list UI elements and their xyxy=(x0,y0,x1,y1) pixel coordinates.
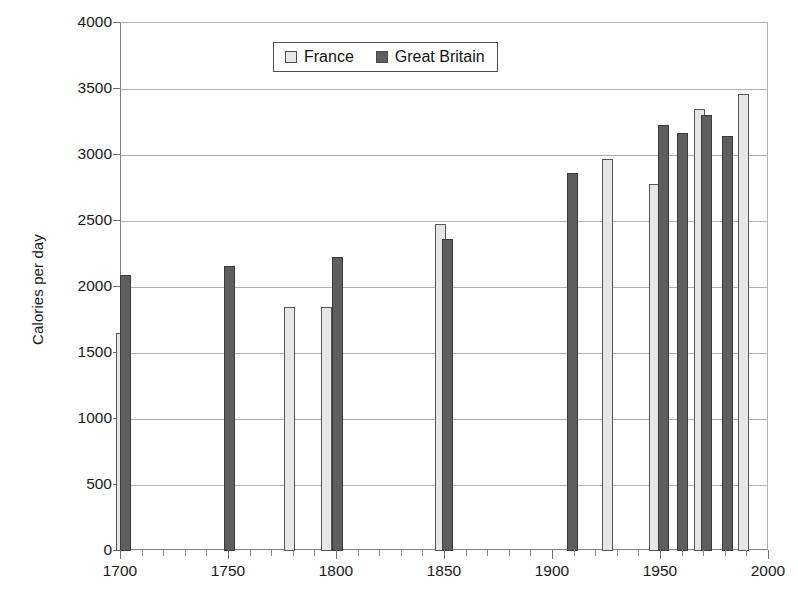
y-axis-tick-label: 500 xyxy=(42,475,112,493)
y-axis-tick-mark xyxy=(113,22,120,23)
x-axis-major-tick xyxy=(228,550,229,559)
x-axis-minor-tick xyxy=(509,550,510,556)
x-axis-tick-label: 1800 xyxy=(296,562,376,580)
y-axis-tick-label: 2500 xyxy=(42,211,112,229)
x-axis-minor-tick xyxy=(271,550,272,556)
x-axis-minor-tick xyxy=(617,550,618,556)
y-axis-tick-label: 3500 xyxy=(42,79,112,97)
x-axis-major-tick xyxy=(660,550,661,559)
chart-legend: France Great Britain xyxy=(273,42,498,72)
x-axis-minor-tick xyxy=(250,550,251,556)
x-axis-minor-tick xyxy=(163,550,164,556)
x-axis-minor-tick xyxy=(293,550,294,556)
bar-gb-1702 xyxy=(120,275,131,551)
x-axis-minor-tick xyxy=(595,550,596,556)
bar-france-1795 xyxy=(321,307,332,551)
x-axis-major-tick xyxy=(768,550,769,559)
y-axis-tick-label: 2000 xyxy=(42,277,112,295)
x-axis-minor-tick xyxy=(142,550,143,556)
bar-gb-1909 xyxy=(567,173,578,551)
bar-gb-1960 xyxy=(677,133,688,551)
x-axis-minor-tick xyxy=(530,550,531,556)
bar-gb-1951 xyxy=(658,125,669,551)
bar-gb-1971 xyxy=(701,115,712,551)
y-axis-tick-label: 1500 xyxy=(42,343,112,361)
legend-label-france: France xyxy=(304,48,354,66)
x-axis-minor-tick xyxy=(466,550,467,556)
x-axis-minor-tick xyxy=(422,550,423,556)
legend-swatch-great-britain-icon xyxy=(376,51,388,63)
bar-france-1778 xyxy=(284,307,295,551)
y-axis-tick-mark xyxy=(113,220,120,221)
x-axis-minor-tick xyxy=(703,550,704,556)
x-axis-minor-tick xyxy=(487,550,488,556)
bar-france-1988 xyxy=(738,94,749,551)
y-axis-tick-label: 0 xyxy=(42,541,112,559)
x-axis-tick-label: 1700 xyxy=(80,562,160,580)
x-axis-major-tick xyxy=(120,550,121,559)
x-axis-major-tick xyxy=(444,550,445,559)
chart-container: Calories per day 05001000150020002500300… xyxy=(0,0,798,609)
bar-gb-1851 xyxy=(442,239,453,551)
bar-gb-1800 xyxy=(332,257,343,551)
x-axis-tick-label: 2000 xyxy=(728,562,798,580)
x-axis-minor-tick xyxy=(746,550,747,556)
gridline xyxy=(121,221,767,222)
x-axis-minor-tick xyxy=(725,550,726,556)
x-axis-tick-label: 1750 xyxy=(188,562,268,580)
x-axis-tick-label: 1850 xyxy=(404,562,484,580)
bar-gb-1750 xyxy=(224,266,235,551)
legend-entry-great-britain[interactable]: Great Britain xyxy=(376,48,485,66)
legend-entry-france[interactable]: France xyxy=(285,48,354,66)
x-axis-minor-tick xyxy=(401,550,402,556)
x-axis-minor-tick xyxy=(206,550,207,556)
x-axis-minor-tick xyxy=(314,550,315,556)
y-axis-tick-mark xyxy=(113,154,120,155)
x-axis-minor-tick xyxy=(379,550,380,556)
gridline xyxy=(121,155,767,156)
bar-france-1925 xyxy=(602,159,613,551)
x-axis-major-tick xyxy=(336,550,337,559)
bar-gb-1981 xyxy=(722,136,733,551)
y-axis-tick-mark xyxy=(113,88,120,89)
legend-swatch-france-icon xyxy=(285,51,297,63)
y-axis-tick-label: 4000 xyxy=(42,13,112,31)
y-axis-tick-label: 1000 xyxy=(42,409,112,427)
plot-area xyxy=(120,22,768,550)
gridline xyxy=(121,89,767,90)
x-axis-tick-label: 1950 xyxy=(620,562,700,580)
y-axis-tick-label: 3000 xyxy=(42,145,112,163)
x-axis-minor-tick xyxy=(358,550,359,556)
x-axis-minor-tick xyxy=(682,550,683,556)
x-axis-minor-tick xyxy=(638,550,639,556)
legend-label-great-britain: Great Britain xyxy=(395,48,485,66)
x-axis-minor-tick xyxy=(574,550,575,556)
x-axis-tick-label: 1900 xyxy=(512,562,592,580)
x-axis-major-tick xyxy=(552,550,553,559)
x-axis-minor-tick xyxy=(185,550,186,556)
